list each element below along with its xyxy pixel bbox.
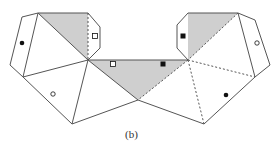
left-lower-fold — [72, 60, 88, 124]
net-diagram — [0, 0, 272, 149]
open-square-marker — [111, 62, 116, 67]
filled-square-marker — [161, 62, 166, 67]
open-circle-marker — [255, 41, 259, 45]
filled-circle-marker — [20, 41, 25, 46]
left-flap-fold — [23, 13, 38, 77]
left-bottom-edge — [23, 77, 72, 124]
figure-caption: (b) — [125, 128, 138, 140]
right-base-edge — [138, 100, 204, 124]
filled-circle-marker — [224, 93, 229, 98]
shaded-center-triangle — [88, 60, 188, 100]
right-flap-fold — [238, 13, 255, 77]
left-base-edge — [72, 100, 138, 124]
right-bottom-edge — [204, 77, 255, 124]
open-square-marker — [93, 34, 98, 39]
shaded-regions — [38, 13, 238, 100]
right-lower-fold — [188, 60, 204, 124]
left-flap-edge — [10, 13, 38, 77]
left-mid-line — [23, 60, 88, 77]
open-circle-marker — [51, 92, 55, 96]
right-mid-fold — [188, 60, 255, 77]
right-flap-edge — [238, 13, 270, 77]
shaded-top-right-triangle — [188, 13, 238, 60]
filled-square-marker — [181, 34, 186, 39]
